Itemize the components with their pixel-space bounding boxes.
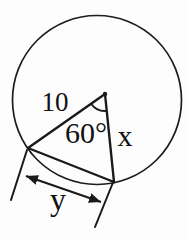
chord-line	[28, 148, 114, 182]
diagram-canvas: 10 60° x y	[0, 0, 188, 240]
geometry-diagram: 10 60° x y	[0, 0, 188, 240]
label-segment-y: y	[50, 181, 66, 217]
label-segment-x: x	[118, 119, 133, 152]
left-tick-line	[11, 150, 27, 200]
label-radius-10: 10	[42, 87, 69, 117]
label-angle-60: 60°	[65, 116, 107, 149]
angle-arc	[91, 104, 107, 111]
right-tick-line	[95, 180, 114, 227]
